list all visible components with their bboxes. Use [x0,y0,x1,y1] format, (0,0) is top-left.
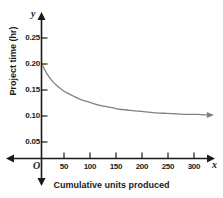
x-axis-arrow-left-icon [6,155,14,163]
xtick-label-300: 300 [180,162,208,171]
tick-marks-group [42,38,195,159]
learning-curve-line [43,66,208,115]
xtick-label-200: 200 [128,162,156,171]
xtick-label-250: 250 [154,162,182,171]
data-series-group [43,66,214,118]
xtick-label-150: 150 [102,162,130,171]
chart-figure: 0.25 0.20 0.15 0.10 0.05 50 100 150 200 … [0,0,223,198]
y-axis-arrow-up-icon [38,12,46,20]
ytick-label-0.05: 0.05 [12,137,40,146]
xtick-label-100: 100 [76,162,104,171]
xtick-label-50: 50 [50,162,78,171]
x-axis-letter: x [212,159,217,170]
y-axis-letter: y [31,8,35,19]
y-axis-title: Project time (hr) [8,6,18,116]
origin-label: O [33,160,40,171]
learning-curve-arrow-icon [207,112,214,118]
x-axis-title: Cumulative units produced [0,180,223,190]
